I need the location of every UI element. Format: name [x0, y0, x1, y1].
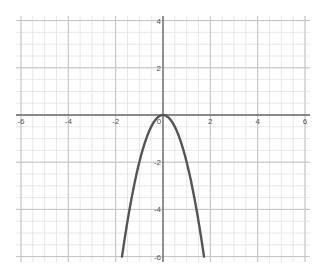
y-tick-label: -6 [154, 253, 162, 262]
x-tick-label: -2 [112, 117, 120, 126]
y-tick-label: 4 [157, 17, 162, 26]
y-tick-label: 2 [157, 64, 162, 73]
x-tick-label: -4 [65, 117, 73, 126]
x-tick-label: 4 [255, 117, 260, 126]
y-tick-label: -2 [154, 158, 162, 167]
x-tick-label: -6 [17, 117, 25, 126]
x-tick-label: 6 [303, 117, 308, 126]
x-tick-label: 2 [208, 117, 213, 126]
y-tick-label: -4 [154, 205, 162, 214]
graph-plot: -6-4-2024642-2-4-6 [0, 0, 325, 275]
